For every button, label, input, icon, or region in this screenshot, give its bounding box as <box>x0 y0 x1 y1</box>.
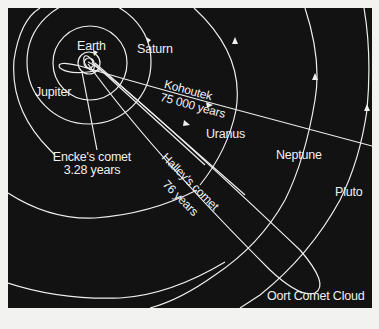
encke-pointer <box>82 72 97 150</box>
label-pluto: Pluto <box>335 186 363 199</box>
label-uranus: Uranus <box>206 128 245 141</box>
label-oort-cloud: Oort Comet Cloud <box>267 290 365 303</box>
pluto-arrow <box>364 104 370 111</box>
halley-arrow <box>183 120 190 126</box>
label-encke-period: 3.28 years <box>47 164 137 177</box>
pluto-orbit-lower <box>8 262 225 298</box>
label-saturn: Saturn <box>137 43 173 56</box>
label-jupiter: Jupiter <box>35 86 71 99</box>
uranus-arrow <box>232 37 238 44</box>
label-neptune: Neptune <box>276 149 322 162</box>
diagram-panel: Earth Jupiter Saturn Uranus Neptune Plut… <box>8 8 372 308</box>
label-earth: Earth <box>77 40 106 53</box>
